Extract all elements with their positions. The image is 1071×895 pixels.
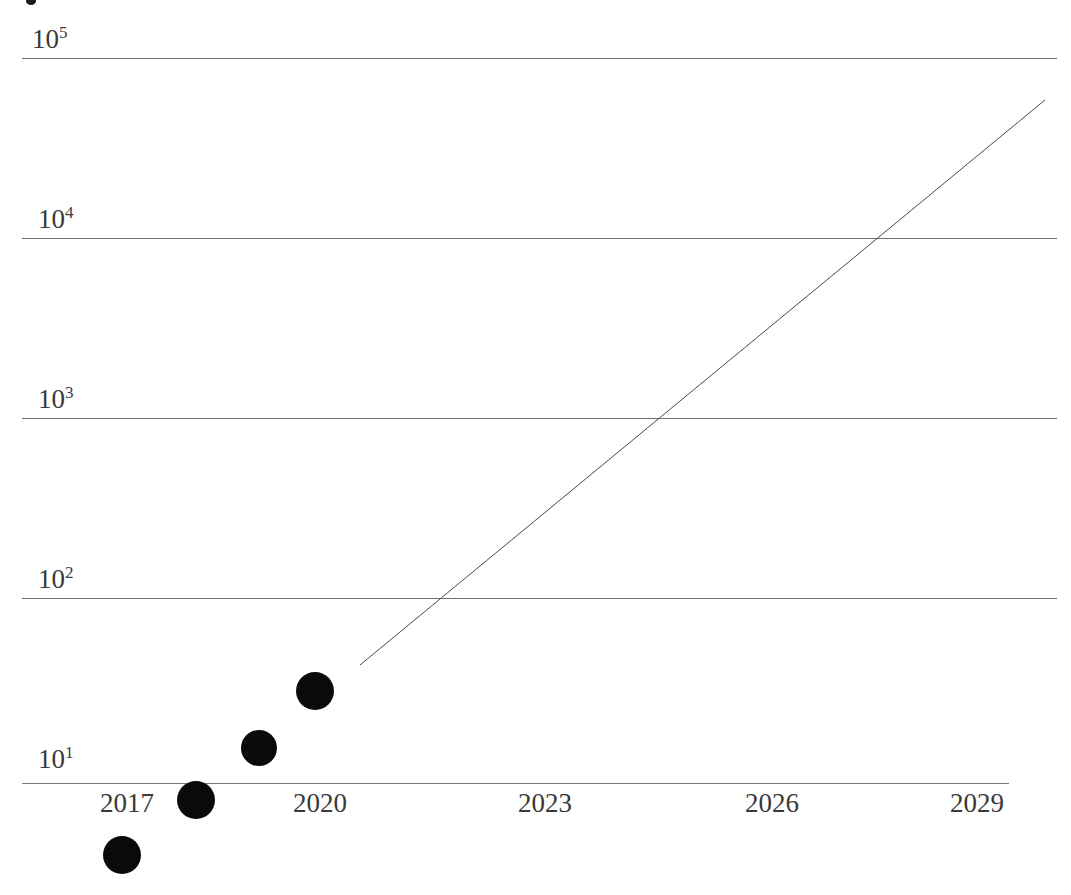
ytick-base-1e3: 10 bbox=[38, 384, 65, 414]
ytick-exponent-1e3: 3 bbox=[65, 383, 74, 402]
data-point bbox=[241, 730, 277, 766]
xtick-label-2023: 2023 bbox=[518, 788, 572, 818]
ytick-base-1e2: 10 bbox=[38, 564, 65, 594]
cropped-mark bbox=[26, 0, 36, 5]
ytick-base-1e4: 10 bbox=[38, 204, 65, 234]
trend-line bbox=[360, 100, 1045, 665]
ytick-exponent-1e5: 5 bbox=[59, 23, 68, 42]
ytick-label-1e2: 102 bbox=[38, 563, 74, 594]
ytick-base-1e1: 10 bbox=[38, 744, 65, 774]
xtick-label-2020: 2020 bbox=[293, 788, 347, 818]
ytick-label-1e5: 105 bbox=[32, 23, 68, 54]
ytick-label-1e4: 104 bbox=[38, 203, 74, 234]
xtick-label-2017: 2017 bbox=[100, 788, 154, 818]
data-point bbox=[177, 781, 215, 819]
ytick-exponent-1e4: 4 bbox=[65, 203, 74, 222]
data-point bbox=[103, 836, 141, 874]
scatter-log-chart: 105 104 103 102 101 2017 2020 2023 2026 … bbox=[0, 0, 1071, 895]
ytick-exponent-1e2: 2 bbox=[65, 563, 74, 582]
xtick-label-2026: 2026 bbox=[745, 788, 799, 818]
data-point bbox=[296, 672, 334, 710]
ytick-base-1e5: 10 bbox=[32, 24, 59, 54]
xtick-label-2029: 2029 bbox=[950, 788, 1004, 818]
chart-container: 105 104 103 102 101 2017 2020 2023 2026 … bbox=[0, 0, 1071, 895]
ytick-label-1e3: 103 bbox=[38, 383, 74, 414]
ytick-label-1e1: 101 bbox=[38, 743, 74, 774]
ytick-exponent-1e1: 1 bbox=[65, 743, 74, 762]
